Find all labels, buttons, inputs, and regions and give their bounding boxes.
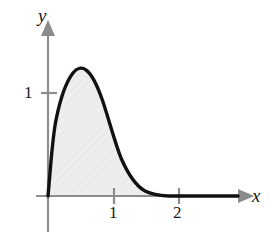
shaded-region-under-curve — [48, 68, 238, 196]
x-axis-tick-label-2: 2 — [173, 204, 182, 221]
figure-container: y x 1 1 2 — [0, 0, 270, 242]
y-axis-label: y — [38, 6, 46, 25]
plot-canvas — [0, 0, 270, 242]
y-axis-tick-label-1: 1 — [24, 84, 33, 101]
x-axis-tick-label-1: 1 — [109, 204, 118, 221]
x-axis-label: x — [252, 186, 260, 205]
